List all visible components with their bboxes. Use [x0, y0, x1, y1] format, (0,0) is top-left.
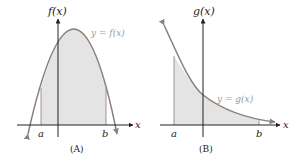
curve-label-g: y = g(x)	[216, 94, 254, 104]
bound-b-label-b: b	[256, 128, 262, 139]
curve-label-f: y = f(x)	[90, 28, 125, 38]
x-axis-label-a: x	[135, 119, 141, 130]
shaded-area-b	[174, 56, 259, 125]
caption-a: (A)	[70, 144, 84, 154]
diagram-canvas: f(x) x y = f(x) a b (A) g(x) x y = g(x) …	[0, 0, 299, 168]
panel-b	[160, 19, 280, 137]
bound-a-label-a: a	[38, 128, 44, 139]
caption-b: (B)	[199, 144, 213, 154]
y-axis-label-a: f(x)	[47, 5, 67, 18]
bound-a-label-b: a	[171, 128, 177, 139]
bound-b-label-a: b	[102, 128, 108, 139]
y-axis-label-b: g(x)	[193, 5, 215, 18]
x-axis-label-b: x	[283, 119, 289, 130]
shaded-area-a	[41, 28, 106, 125]
